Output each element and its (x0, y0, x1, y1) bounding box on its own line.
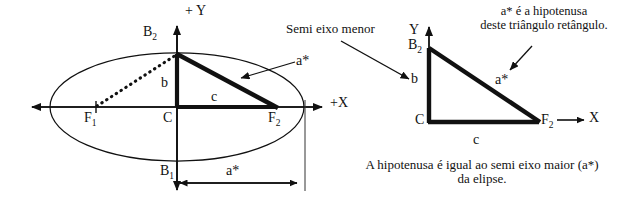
ellipse-point-b2-subscript: 2 (152, 32, 157, 42)
ellipse-segment-b-label: b (161, 75, 168, 90)
ellipse-segment-c-label: c (211, 89, 217, 104)
ellipse-focus-f1-label: F1 (84, 110, 97, 128)
caption-bottom-line1: A hipotenusa é igual ao semi eixo maior … (332, 158, 632, 172)
ellipse-focus-f2-label: F2 (268, 110, 281, 128)
callout-arrow-a-ellipse (241, 62, 295, 78)
ellipse-measure-a-label: a* (226, 163, 239, 178)
triangle-vertex-f2-subscript: 2 (549, 120, 554, 130)
note-hypotenuse: a* é a hipotenusa deste triângulo retâng… (449, 5, 639, 32)
triangle-x-axis-label: X (589, 110, 599, 125)
ellipse-focus-f2-subscript: 2 (276, 118, 281, 128)
ellipse-y-axis-label: + Y (185, 3, 206, 18)
ellipse-right-triangle-figure: + Y +X B2 B1 F1 F2 C b c a* a* Semi eixo… (0, 0, 642, 201)
triangle-vertex-f2-label: F2 (541, 112, 554, 130)
triangle-segment-b-label: b (411, 71, 418, 86)
caption-bottom-line2: da elipse. (332, 172, 632, 186)
ellipse-point-b2-label: B2 (143, 24, 157, 42)
triangle-segment-a-label: a* (495, 72, 508, 87)
triangle-segment-c-label: c (473, 132, 479, 147)
triangle-vertex-b2-subscript: 2 (417, 45, 422, 55)
callout-arrow-semi-minor (341, 41, 409, 79)
note-hypotenuse-line1: a* é a hipotenusa (449, 5, 639, 19)
triangle-y-axis-label: Y (409, 22, 419, 37)
triangle-vertex-c-label: C (415, 112, 424, 127)
note-hypotenuse-line2: deste triângulo retângulo. (449, 19, 639, 33)
ellipse-focus-f1-subscript: 1 (92, 118, 97, 128)
segment-a-hypotenuse-ellipse (177, 54, 278, 108)
segment-a-hypotenuse-triangle (429, 48, 540, 122)
ellipse-point-b1-subscript: 1 (169, 171, 174, 181)
ellipse-x-axis-label: +X (330, 95, 348, 110)
callout-arrow-a-triangle (510, 46, 532, 70)
ellipse-point-b1-label: B1 (160, 163, 174, 181)
callout-semi-minor-label: Semi eixo menor (286, 22, 375, 36)
ellipse-segment-a-label: a* (296, 53, 309, 68)
caption-bottom: A hipotenusa é igual ao semi eixo maior … (332, 158, 632, 186)
ellipse-center-label: C (163, 110, 172, 125)
triangle-vertex-b2-label: B2 (408, 37, 422, 55)
